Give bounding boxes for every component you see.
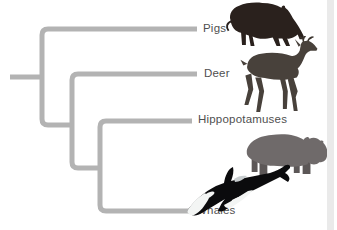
deer-image [227,36,322,113]
cladogram-figure: Pigs Deer Hippopotamuses Whales [0,0,337,230]
deer-legs [244,74,297,113]
branch-pigs-clade [42,29,197,125]
orca-image [182,162,294,226]
taxon-label-deer: Deer [204,68,230,80]
taxon-label-hippopotamuses: Hippopotamuses [198,114,287,126]
branch-hippo-whale-clade [100,121,192,211]
scrollbar-track[interactable] [327,0,334,230]
boar-tail [227,21,232,31]
deer-body [240,39,317,80]
